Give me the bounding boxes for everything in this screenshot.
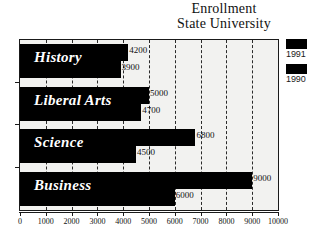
x-axis-tick-label: 3000 — [89, 217, 105, 226]
x-axis-tick — [123, 212, 124, 216]
value-label-liberal-arts-1990: 4700 — [142, 105, 160, 115]
legend-swatch-icon-1990 — [286, 64, 307, 74]
bar-group-liberal-arts: 50004700Liberal Arts — [20, 87, 278, 121]
legend-label-1990: 1990 — [286, 74, 320, 85]
plot-inner: 42003900History50004700Liberal Arts68004… — [20, 40, 278, 210]
chart-title: Enrollment State University — [150, 1, 298, 31]
value-label-business-1991: 9000 — [253, 173, 271, 183]
category-label-history: History — [34, 49, 82, 66]
bar-group-business: 90006000Business — [20, 172, 278, 206]
x-axis-tick-label: 6000 — [167, 217, 183, 226]
x-axis-tick — [175, 212, 176, 216]
y-axis-tick — [15, 124, 20, 125]
x-axis-tick — [97, 212, 98, 216]
x-axis-tick-label: 4000 — [115, 217, 131, 226]
x-axis-tick — [252, 212, 253, 216]
x-axis-tick-label: 2000 — [64, 217, 80, 226]
x-axis-tick-label: 10000 — [268, 217, 288, 226]
chart-title-line-2: State University — [150, 16, 298, 31]
legend-entry-1991[interactable]: 1991 — [286, 39, 320, 60]
x-axis-tick-label: 0 — [18, 217, 22, 226]
x-axis-tick — [20, 212, 21, 216]
value-label-history-1991: 4200 — [129, 45, 147, 55]
bar-group-history: 42003900History — [20, 44, 278, 78]
x-axis-tick-label: 1000 — [38, 217, 54, 226]
chart-legend: 1991 1990 — [286, 39, 320, 89]
x-axis-tick — [149, 212, 150, 216]
x-axis-tick — [72, 212, 73, 216]
x-axis-tick — [278, 212, 279, 216]
value-label-business-1990: 6000 — [176, 190, 194, 200]
x-axis-tick-label: 8000 — [218, 217, 234, 226]
value-label-science-1991: 6800 — [196, 130, 214, 140]
category-label-science: Science — [34, 134, 84, 151]
x-axis-tick — [226, 212, 227, 216]
plot-area: 42003900History50004700Liberal Arts68004… — [19, 39, 279, 211]
x-axis-tick-label: 5000 — [141, 217, 157, 226]
x-axis-tick — [46, 212, 47, 216]
value-label-science-1990: 4500 — [137, 147, 155, 157]
bar-group-science: 68004500Science — [20, 129, 278, 163]
enrollment-bar-chart: Enrollment State University 1991 1990 42… — [0, 0, 321, 239]
chart-title-line-1: Enrollment — [150, 1, 298, 16]
legend-entry-1990[interactable]: 1990 — [286, 64, 320, 85]
category-label-liberal-arts: Liberal Arts — [34, 92, 112, 109]
legend-label-1991: 1991 — [286, 49, 320, 60]
y-axis-tick — [15, 82, 20, 83]
value-label-liberal-arts-1991: 5000 — [150, 88, 168, 98]
x-axis-tick — [201, 212, 202, 216]
value-label-history-1990: 3900 — [122, 62, 140, 72]
y-axis-tick — [15, 167, 20, 168]
x-axis-tick-label: 7000 — [193, 217, 209, 226]
category-label-business: Business — [34, 177, 91, 194]
legend-swatch-icon-1991 — [286, 39, 307, 49]
x-axis-tick-label: 9000 — [244, 217, 260, 226]
